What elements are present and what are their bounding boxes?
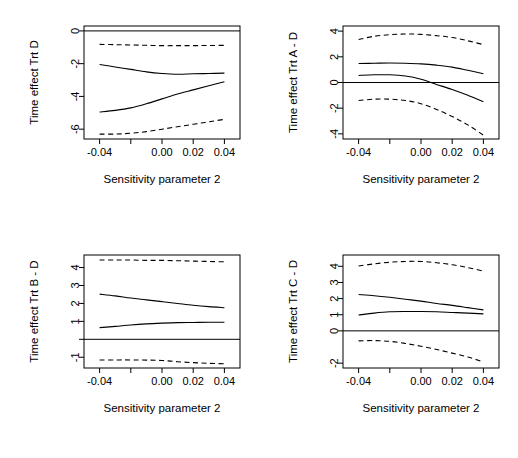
x-axis-title: Sensitivity parameter 2 (363, 173, 480, 185)
series-line-1 (359, 63, 484, 74)
series-line-2 (359, 311, 484, 315)
y-tick-label: -2 (69, 59, 81, 69)
x-tick-label: 0.04 (214, 146, 235, 158)
y-tick-label: 2 (328, 54, 340, 60)
y-tick-label: 2 (69, 300, 81, 306)
series-line-2 (100, 82, 225, 112)
y-tick-label: 0 (69, 28, 81, 34)
y-tick-label: 1 (69, 318, 81, 324)
y-axis-title: Time effect Trt D (28, 40, 40, 124)
series-line-0 (100, 260, 225, 262)
x-tick-label: 0.00 (410, 146, 431, 158)
x-tick-label: 0.02 (441, 146, 462, 158)
series-line-1 (359, 295, 484, 310)
series-line-0 (359, 34, 484, 45)
x-tick-label: 0.02 (441, 375, 462, 387)
y-axis-title: Time effect Trt C - D (287, 260, 299, 363)
y-tick-label: -1 (69, 352, 81, 362)
y-tick-label: 3 (328, 279, 340, 285)
x-tick-label: 0.04 (214, 375, 235, 387)
plot-panel-top-right: -0.040.000.020.04420-2-4Time effect Trt … (259, 0, 518, 229)
plot-panel-top-left: -0.040.000.020.040-2-4-6Time effect Trt … (0, 0, 259, 229)
y-tick-label: -4 (69, 92, 81, 102)
x-tick-label: 0.02 (182, 375, 203, 387)
series-line-2 (100, 322, 225, 327)
plot-panel-bottom-right: -0.040.000.020.0443210-2Time effect Trt … (259, 229, 518, 458)
series-line-0 (100, 44, 225, 45)
y-tick-label: 4 (69, 264, 81, 270)
series-line-1 (100, 64, 225, 74)
series-line-3 (100, 119, 225, 134)
y-axis-title: Time effect Trt A - D (287, 32, 299, 133)
series-line-3 (100, 360, 225, 364)
series-line-1 (100, 294, 225, 308)
x-tick-label: 0.04 (473, 375, 494, 387)
x-tick-label: -0.04 (346, 375, 371, 387)
x-tick-label: 0.00 (410, 375, 431, 387)
y-tick-label: 1 (328, 312, 340, 318)
plot-box (84, 26, 240, 139)
series-line-3 (359, 99, 484, 135)
sensitivity-analysis-figure: -0.040.000.020.040-2-4-6Time effect Trt … (0, 0, 518, 458)
y-tick-label: -2 (328, 358, 340, 368)
y-tick-label: 3 (69, 282, 81, 288)
y-tick-label: -4 (328, 129, 340, 139)
y-tick-label: 0 (328, 328, 340, 334)
y-tick-label: -6 (69, 124, 81, 134)
x-axis-title: Sensitivity parameter 2 (104, 173, 221, 185)
y-tick-label: 4 (328, 28, 340, 34)
plot-box (84, 255, 240, 368)
series-line-3 (359, 341, 484, 362)
x-axis-title: Sensitivity parameter 2 (104, 402, 221, 414)
x-tick-label: -0.04 (346, 146, 371, 158)
x-tick-label: 0.02 (182, 146, 203, 158)
plot-panel-bottom-left: -0.040.000.020.044321-1Time effect Trt B… (0, 229, 259, 458)
x-tick-label: 0.00 (151, 375, 172, 387)
x-axis-title: Sensitivity parameter 2 (363, 402, 480, 414)
x-tick-label: 0.00 (151, 146, 172, 158)
y-tick-label: 4 (328, 263, 340, 269)
series-line-0 (359, 261, 484, 271)
y-tick-label: 0 (328, 79, 340, 85)
x-tick-label: 0.04 (473, 146, 494, 158)
y-axis-title: Time effect Trt B - D (28, 260, 40, 362)
x-tick-label: -0.04 (87, 375, 112, 387)
x-tick-label: -0.04 (87, 146, 112, 158)
y-tick-label: -2 (328, 103, 340, 113)
series-line-2 (359, 75, 484, 102)
y-tick-label: 2 (328, 296, 340, 302)
